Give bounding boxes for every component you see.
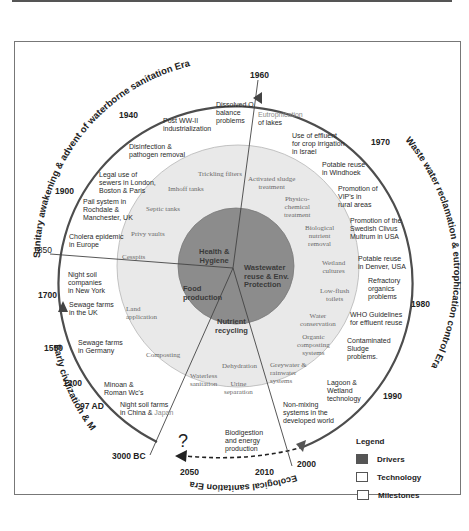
milestone-lagoon-wetland: Lagoon & Wetland technology (327, 379, 361, 404)
milestone-minoan-roman: Minoan & Roman Wc's (104, 381, 143, 397)
tech-low-flush-toilets: Low-flush toilets (320, 287, 349, 303)
tech-activated-sludge: Activated sludge treatment (248, 175, 295, 191)
milestone-clivus-multrum: Promotion of the Swedish Clivus Multrum … (350, 217, 401, 242)
question-mark: ? (178, 431, 188, 452)
year-1940: 1940 (119, 110, 138, 120)
tech-composting: Composting (146, 351, 180, 359)
year-1200: 1200 (63, 378, 82, 388)
milestone-night-soil-china: Night soil farms in China & Japan (120, 401, 173, 417)
year-2000: 2000 (297, 459, 316, 469)
legend-swatch-technology (356, 472, 368, 482)
year-1960: 1960 (250, 70, 269, 80)
tech-greywater-rainwater: Greywater & rainwater systems (270, 361, 307, 385)
year-3000bc: 3000 BC (112, 451, 146, 461)
year-1900: 1900 (55, 186, 74, 196)
milestone-sewage-farms-uk: Sewage farms in the UK (69, 301, 114, 317)
tech-imhoff-tanks: Imhoff tanks (168, 185, 204, 193)
year-2050: 2050 (180, 467, 199, 477)
milestone-dissolved-o2: Dissolved O balance problems (216, 101, 254, 126)
tech-organic-composting: Organic composting systems (297, 333, 330, 357)
tech-biological-nutrient-removal: Biological nutrient removal (305, 224, 334, 248)
milestone-post-ww2: Post WW-II industrialization (163, 117, 211, 133)
milestone-legal-sewers: Legal use of sewers in London, Boston & … (99, 171, 156, 196)
milestone-disinfection: Disinfection & pathogen removal (129, 143, 185, 159)
tech-waterless-sanitation: Waterless sanitation (190, 372, 217, 388)
tech-privy-vaults: Privy vaults (131, 230, 165, 238)
milestone-potable-reuse-windhoek: Potable reuse in Windhoek (322, 161, 365, 177)
driver-wastewater-reuse: Wastewater reuse & Env. Protection (244, 264, 289, 290)
milestone-eutrophication: Eutrophicationof lakes (258, 111, 303, 127)
year-1550: 1550 (44, 343, 63, 353)
milestone-who-guidelines: WHO Guidelines for effluent reuse (350, 311, 402, 327)
tech-urine-separation: Urine separation (224, 380, 253, 396)
milestone-sewage-farms-germany: Sewage farms in Germany (78, 339, 123, 355)
tech-land-application: Land application (126, 305, 157, 321)
era-label-ecological: Ecological sanitation Era (188, 473, 299, 493)
year-1990: 1990 (383, 391, 402, 401)
tech-cesspits: Cesspits (122, 253, 145, 261)
year-1850: 1850 (33, 245, 52, 255)
tech-physico-chemical: Physico- chemical treatment (284, 195, 310, 219)
driver-food-production: Food production (183, 285, 222, 302)
arc-arrowhead-2000-icon (296, 440, 306, 452)
milestone-non-mixing: Non-mixing systems in the developed worl… (283, 401, 334, 426)
legend-swatch-milestones (357, 490, 369, 500)
milestone-night-soil-ny: Night soil companies in New York (68, 271, 105, 296)
milestone-vip-promotion: Promotion of VIP's in rural areas (338, 185, 378, 210)
year-2010: 2010 (255, 467, 274, 477)
milestone-eutrophication-line1: Eutrophication (258, 111, 303, 118)
arc-arrowhead-1960-icon (253, 92, 262, 104)
legend-label-drivers: Drivers (377, 455, 405, 464)
year-1980: 1980 (411, 299, 430, 309)
milestone-contaminated-sludge: Contaminated Sludge problems. (347, 337, 391, 362)
tech-trickling-filters: Trickling filters (198, 170, 242, 178)
legend-label-milestones: Milestones (378, 491, 419, 500)
legend-item-drivers: Drivers (356, 454, 405, 464)
year-1970: 1970 (371, 137, 390, 147)
milestone-refractory-organics: Refractory organics problems (368, 277, 400, 302)
tech-wetland-cultures: Wetland cultures (322, 259, 345, 275)
legend-item-milestones: Milestones (357, 490, 419, 500)
milestone-crop-irrigation-israel: Use of effluent for crop irrigation in I… (292, 132, 345, 157)
milestone-pail-system: Pail system in Rochdale & Manchester, UK (83, 198, 133, 223)
milestone-potable-reuse-denver: Potable reuse in Denver, USA (358, 255, 406, 271)
year-97ad: 97 AD (80, 401, 104, 411)
driver-health-hygiene: Health & Hygiene (199, 248, 229, 265)
milestone-night-soil-japan-text: Japan (154, 409, 173, 416)
legend-swatch-drivers (356, 454, 368, 464)
legend-title: Legend (356, 437, 384, 446)
milestone-cholera: Cholera epidemic in Europe (69, 233, 123, 249)
legend-label-technology: Technology (377, 473, 421, 482)
milestone-eutrophication-line2: of lakes (258, 119, 282, 126)
era-label-wastewater: Waste water reclamation & eutrophication… (403, 134, 463, 372)
tech-dehydration: Dehydration (222, 362, 257, 370)
tech-septic-tanks: Septic tanks (146, 205, 180, 213)
tech-water-conservation: Water conservation (300, 312, 336, 328)
milestone-biodigestion: Biodigestion and energy production (225, 429, 263, 454)
year-1700: 1700 (38, 290, 57, 300)
legend-item-technology: Technology (356, 472, 421, 482)
driver-nutrient-recycling: Nutrient recycling (215, 318, 248, 335)
